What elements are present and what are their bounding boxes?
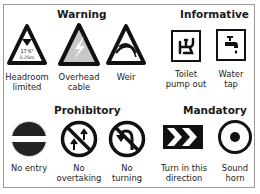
no-entry-icon bbox=[9, 119, 49, 159]
svg-text:5.25m: 5.25m bbox=[20, 55, 34, 60]
prohibitory-heading: Prohibitory bbox=[54, 104, 121, 116]
sound-horn-icon bbox=[217, 119, 253, 155]
sound-horn-sign bbox=[217, 119, 253, 155]
overhead-cable-sign bbox=[57, 22, 101, 68]
weir-icon bbox=[106, 23, 146, 67]
turn-in-this-direction-label: Turn in this direction bbox=[158, 163, 210, 183]
no-turning-label: No turning bbox=[104, 163, 150, 183]
no-turning-sign bbox=[108, 120, 146, 158]
headroom-limited-sign: 17'6" 5.25m bbox=[7, 23, 47, 67]
warning-triangle-icon: 17'6" 5.25m bbox=[7, 23, 47, 67]
svg-text:17'6": 17'6" bbox=[20, 48, 33, 54]
toilet-pump-out-label: Toilet pump out bbox=[160, 69, 212, 89]
informative-heading: Informative bbox=[180, 8, 249, 20]
warning-heading: Warning bbox=[57, 8, 107, 20]
water-tap-icon bbox=[216, 29, 246, 61]
no-overtaking-icon bbox=[60, 120, 98, 158]
water-tap-sign bbox=[216, 29, 246, 61]
weir-label: Weir bbox=[104, 72, 148, 82]
no-overtaking-label: No overtaking bbox=[54, 163, 104, 183]
no-entry-sign bbox=[9, 119, 49, 159]
toilet-pump-out-sign bbox=[171, 30, 201, 62]
turn-in-this-direction-sign bbox=[163, 125, 203, 149]
no-entry-label: No entry bbox=[4, 163, 54, 173]
water-tap-label: Water tap bbox=[211, 69, 251, 89]
weir-sign bbox=[106, 23, 146, 67]
overhead-cable-label: Overhead cable bbox=[54, 72, 104, 92]
no-overtaking-sign bbox=[60, 120, 98, 158]
headroom-limited-label: Headroom limited bbox=[2, 72, 52, 92]
toilet-pump-icon bbox=[171, 30, 201, 62]
no-turning-icon bbox=[108, 120, 146, 158]
lightning-icon bbox=[57, 22, 101, 68]
sound-horn-label: Sound horn bbox=[213, 163, 257, 183]
chevron-right-icon bbox=[163, 125, 203, 149]
mandatory-heading: Mandatory bbox=[183, 104, 247, 116]
